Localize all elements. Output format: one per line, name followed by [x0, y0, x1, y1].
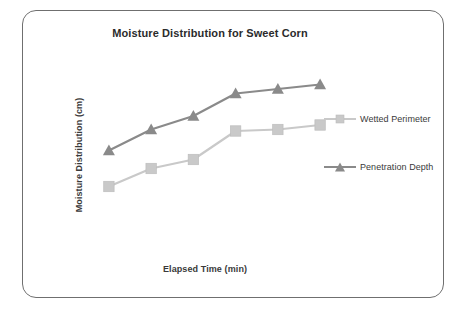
series-wetted-perimeter — [104, 120, 326, 192]
legend-item-wetted-perimeter[interactable]: Wetted Perimeter — [324, 112, 431, 126]
data-point-marker[interactable] — [273, 124, 283, 134]
data-point-marker[interactable] — [230, 126, 240, 136]
chart-legend: Wetted Perimeter Penetration Depth — [324, 100, 454, 190]
square-marker-icon — [324, 113, 356, 125]
series-penetration-depth — [103, 79, 326, 156]
y-axis-label: Moisture Distribution (cm) — [74, 75, 84, 235]
series-line — [109, 85, 320, 151]
data-point-marker[interactable] — [187, 110, 199, 121]
data-point-marker[interactable] — [146, 163, 156, 173]
legend-item-penetration-depth[interactable]: Penetration Depth — [324, 160, 433, 174]
data-point-marker[interactable] — [104, 181, 114, 191]
chart-figure: Moisture Distribution for Sweet Corn Moi… — [0, 0, 466, 315]
legend-item-label: Penetration Depth — [360, 162, 433, 172]
data-point-marker[interactable] — [103, 145, 115, 156]
triangle-marker-icon — [324, 161, 356, 173]
data-point-marker[interactable] — [314, 79, 326, 90]
series-layer — [103, 79, 326, 192]
legend-item-label: Wetted Perimeter — [360, 114, 431, 124]
plot-area — [92, 68, 337, 218]
data-point-marker[interactable] — [188, 154, 198, 164]
plot-svg — [92, 68, 337, 218]
chart-title: Moisture Distribution for Sweet Corn — [60, 27, 360, 39]
x-axis-label: Elapsed Time (min) — [105, 264, 305, 274]
